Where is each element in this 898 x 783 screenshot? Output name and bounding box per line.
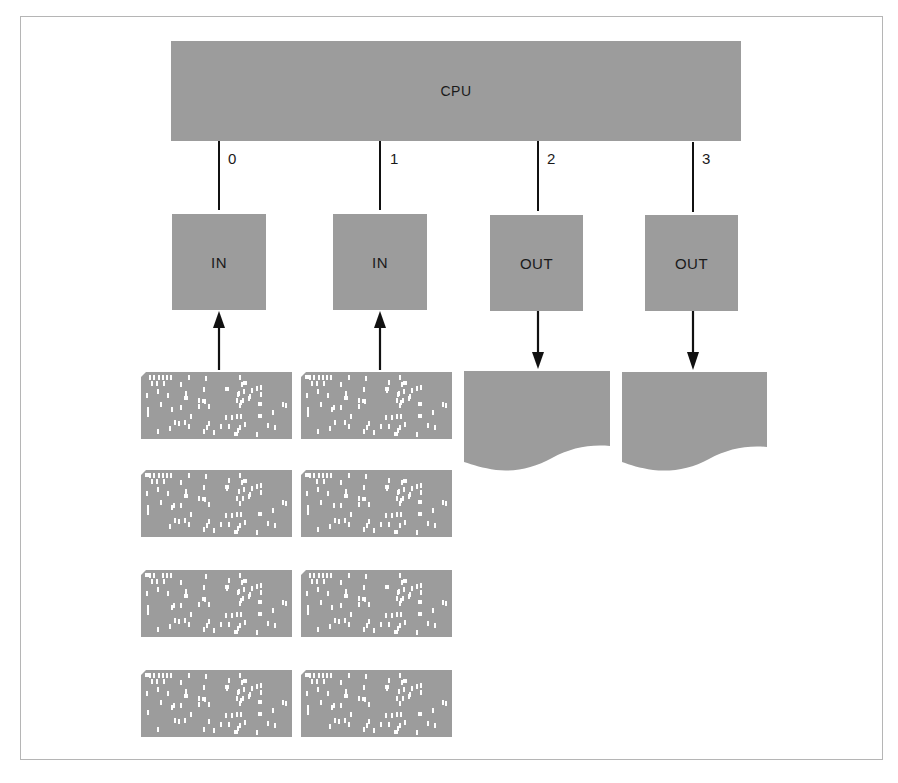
card-hole: [420, 385, 422, 390]
card-hole: [362, 399, 366, 403]
card-hole: [399, 701, 401, 706]
card-hole: [340, 703, 342, 708]
card-hole: [171, 605, 173, 610]
card-hole: [401, 580, 403, 585]
card-hole: [442, 500, 444, 505]
card-hole: [163, 679, 165, 684]
card-hole: [394, 530, 398, 534]
card-hole: [251, 388, 253, 393]
card-hole: [171, 407, 173, 412]
card-hole: [190, 414, 192, 419]
card-hole: [208, 702, 210, 707]
card-hole: [368, 702, 370, 707]
card-hole: [344, 420, 346, 425]
card-hole: [169, 426, 171, 431]
card-hole: [171, 705, 173, 710]
card-hole: [147, 605, 149, 610]
card-hole: [198, 398, 200, 403]
card-hole: [146, 591, 148, 596]
card-hole: [272, 708, 274, 713]
card-hole: [237, 726, 239, 731]
card-hole: [388, 678, 390, 683]
card-hole: [344, 618, 346, 623]
card-hole: [323, 679, 325, 684]
card-hole: [340, 603, 342, 608]
card-hole: [169, 624, 171, 629]
card-hole: [180, 503, 182, 508]
card-hole: [202, 597, 206, 601]
card-hole: [256, 386, 258, 391]
card-hole: [396, 496, 398, 501]
card-hole: [151, 579, 153, 584]
card-hole: [313, 573, 315, 578]
card-hole: [198, 602, 200, 607]
card-hole: [236, 612, 238, 617]
card-hole: [178, 421, 180, 426]
card-hole: [432, 410, 434, 415]
card-hole: [340, 580, 342, 585]
card-hole: [327, 491, 329, 496]
card-hole: [260, 683, 262, 688]
card-hole: [213, 628, 215, 633]
card-hole: [145, 673, 149, 677]
card-hole: [317, 587, 319, 592]
card-hole: [236, 712, 238, 717]
card-hole: [411, 486, 413, 491]
card-hole: [160, 700, 162, 705]
punched-card: [301, 670, 452, 737]
card-hole: [267, 423, 269, 428]
card-hole: [345, 391, 347, 396]
card-hole: [180, 703, 182, 708]
card-hole: [309, 673, 311, 678]
card-hole: [237, 626, 239, 631]
card-hole: [398, 489, 400, 494]
card-hole: [358, 496, 360, 501]
card-hole: [385, 415, 387, 420]
punched-card: [301, 470, 452, 537]
card-hole: [174, 618, 176, 623]
card-hole: [149, 375, 151, 380]
card-hole: [225, 485, 229, 489]
card-hole: [344, 396, 348, 400]
card-hole: [236, 512, 238, 517]
card-hole: [225, 613, 227, 618]
card-hole: [418, 612, 422, 616]
card-hole: [256, 684, 258, 689]
card-hole: [188, 375, 190, 380]
card-hole: [396, 696, 398, 701]
card-hole: [256, 730, 258, 735]
card-hole: [368, 619, 370, 624]
card-hole: [239, 375, 241, 380]
card-hole: [348, 522, 350, 527]
card-hole: [238, 391, 240, 396]
card-hole: [416, 484, 418, 489]
card-hole: [317, 687, 319, 692]
card-hole: [403, 679, 407, 683]
card-hole: [399, 425, 401, 430]
card-hole: [400, 598, 402, 603]
card-hole: [184, 518, 186, 523]
card-hole: [400, 712, 402, 717]
card-hole: [331, 605, 333, 610]
card-hole: [198, 696, 200, 701]
card-hole: [323, 579, 325, 584]
card-hole: [322, 473, 324, 478]
card-hole: [366, 425, 368, 430]
card-hole: [239, 673, 241, 678]
card-hole: [208, 404, 210, 409]
card-hole: [163, 381, 165, 386]
card-hole: [188, 522, 190, 527]
card-hole: [157, 487, 159, 492]
card-hole: [399, 375, 401, 380]
card-hole: [243, 381, 247, 385]
card-hole: [239, 523, 241, 528]
card-hole: [244, 422, 246, 427]
card-hole: [397, 428, 399, 433]
card-hole: [267, 621, 269, 626]
card-hole: [174, 718, 176, 723]
card-hole: [228, 424, 230, 429]
card-hole: [228, 678, 230, 683]
card-hole: [307, 412, 309, 417]
card-hole: [242, 696, 244, 701]
card-hole: [380, 622, 382, 627]
